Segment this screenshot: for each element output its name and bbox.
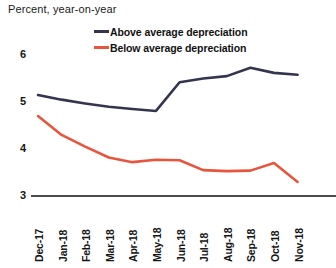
x-axis-tick-label: Jul-18: [198, 233, 210, 262]
x-axis-tick-label: Sep-18: [245, 229, 257, 262]
x-axis-tick-label: Mar-18: [104, 229, 116, 262]
x-axis-tick-label: Apr-18: [127, 230, 139, 262]
x-axis-tick-label: Feb-18: [80, 229, 92, 262]
chart-container: Percent, year-on-year Above average depr…: [0, 0, 336, 268]
x-axis-tick-label: Dec-17: [33, 229, 45, 262]
x-axis-tick-label: Jan-18: [57, 230, 69, 262]
x-axis-tick-label: Jun-18: [175, 229, 187, 262]
x-axis: Dec-17Jan-18Feb-18Mar-18Apr-18May-18Jun-…: [0, 0, 336, 268]
x-axis-tick-label: May-18: [151, 228, 163, 262]
x-axis-tick-label: Oct-18: [269, 231, 281, 262]
x-axis-tick-label: Aug-18: [222, 228, 234, 262]
x-axis-tick-label: Nov-18: [293, 228, 305, 262]
